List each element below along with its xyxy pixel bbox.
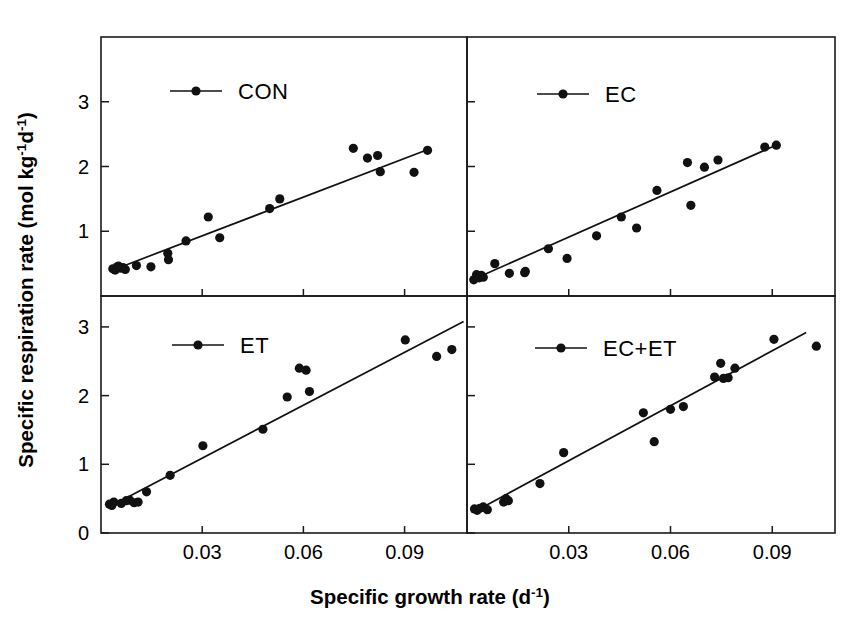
data-point (683, 158, 692, 167)
data-point (134, 497, 143, 506)
data-point (215, 233, 224, 242)
data-point (373, 151, 382, 160)
data-point (490, 259, 499, 268)
x-axis-title-superscript: -1 (531, 585, 543, 600)
data-point (716, 359, 725, 368)
data-point (504, 496, 513, 505)
data-point (559, 448, 568, 457)
data-point (198, 441, 207, 450)
data-point (562, 254, 571, 263)
y-axis-title-close: ) (14, 112, 37, 119)
data-point (479, 273, 488, 282)
figure-container: 1230.030.060.0901230.030.060.09 CONECETE… (0, 0, 860, 636)
x-tick-label: 0.06 (284, 541, 323, 563)
x-tick-label: 0.03 (183, 541, 222, 563)
y-tick-label: 3 (78, 91, 89, 113)
x-axis-title: Specific growth rate (d-1) (310, 585, 550, 608)
y-tick-label: 1 (78, 220, 89, 242)
data-point (724, 373, 733, 382)
data-point (483, 505, 492, 514)
data-point (258, 425, 267, 434)
data-point (275, 194, 284, 203)
data-point (666, 405, 675, 414)
regression-lines (108, 144, 806, 512)
legend-label-ec-et: EC+ET (603, 336, 677, 361)
data-point (265, 204, 274, 213)
x-tick-label: 0.06 (651, 541, 690, 563)
data-point (535, 479, 544, 488)
legend-marker (558, 89, 567, 98)
x-tick-label: 0.09 (753, 541, 792, 563)
data-point (164, 255, 173, 264)
data-point (505, 269, 514, 278)
regression-line-et (108, 321, 463, 507)
panel-legends: CONECETEC+ET (170, 79, 677, 361)
data-point (760, 142, 769, 151)
data-points (105, 141, 821, 515)
y-axis-title: Specific respiration rate (mol kg-1d-1) (14, 112, 37, 468)
panel-frame-ecet (467, 296, 835, 533)
legend-label-ec: EC (605, 82, 637, 107)
data-point (121, 265, 130, 274)
four-panel-scatter-figure: 1230.030.060.0901230.030.060.09 CONECETE… (0, 0, 860, 636)
y-tick-label: 1 (78, 453, 89, 475)
data-point (812, 342, 821, 351)
data-point (700, 163, 709, 172)
axis-ticks (101, 102, 772, 533)
data-point (146, 262, 155, 271)
panel-frames (101, 37, 835, 533)
y-axis-title-text-b: d (14, 131, 37, 144)
x-axis-title-close: ) (543, 585, 550, 608)
data-point (181, 236, 190, 245)
data-point (617, 212, 626, 221)
data-point (521, 267, 530, 276)
data-point (423, 146, 432, 155)
data-point (652, 186, 661, 195)
x-tick-label: 0.09 (385, 541, 424, 563)
x-axis-title-text: Specific growth rate (d (310, 585, 531, 608)
regression-line-ec (473, 144, 778, 279)
data-point (363, 153, 372, 162)
legend-label-con: CON (238, 79, 288, 104)
svg-text:Specific growth rate (d-1): Specific growth rate (d-1) (310, 585, 550, 608)
data-point (305, 387, 314, 396)
data-point (132, 261, 141, 270)
data-point (650, 437, 659, 446)
legend-marker (191, 86, 200, 95)
data-point (713, 155, 722, 164)
y-tick-label: 0 (78, 522, 89, 544)
data-point (401, 335, 410, 344)
data-point (544, 244, 553, 253)
data-point (772, 141, 781, 150)
data-point (432, 352, 441, 361)
svg-text:Specific respiration rate (mol: Specific respiration rate (mol kg-1d-1) (14, 112, 37, 468)
data-point (283, 392, 292, 401)
panel-frame-con (101, 37, 467, 296)
data-point (632, 223, 641, 232)
data-point (447, 345, 456, 354)
y-tick-label: 3 (78, 316, 89, 338)
data-point (730, 364, 739, 373)
data-point (166, 471, 175, 480)
data-point (710, 372, 719, 381)
y-tick-label: 2 (78, 156, 89, 178)
data-point (142, 487, 151, 496)
data-point (204, 212, 213, 221)
data-point (301, 366, 310, 375)
data-point (769, 335, 778, 344)
legend-marker (193, 340, 202, 349)
x-tick-label: 0.03 (549, 541, 588, 563)
data-point (679, 402, 688, 411)
y-tick-label: 2 (78, 385, 89, 407)
y-axis-title-text-a: Specific respiration rate (mol kg (14, 156, 37, 468)
data-point (349, 144, 358, 153)
legend-marker (556, 343, 565, 352)
data-point (686, 201, 695, 210)
legend-label-et: ET (240, 333, 269, 358)
data-point (376, 167, 385, 176)
data-point (639, 408, 648, 417)
y-axis-title-superscript-1: -1 (14, 143, 29, 155)
y-axis-title-superscript-2: -1 (14, 119, 29, 131)
data-point (592, 231, 601, 240)
data-point (409, 168, 418, 177)
